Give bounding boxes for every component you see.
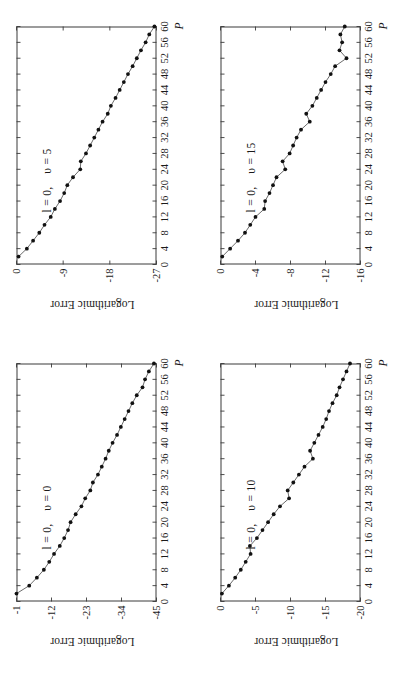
x-tick-label: 48: [158, 405, 169, 416]
data-point: [307, 119, 311, 123]
annotation-v-3: υ = 15: [244, 142, 256, 173]
x-tick-label: 20: [158, 179, 169, 190]
data-point: [71, 175, 75, 179]
y-tick-label: -9: [57, 268, 68, 330]
data-series-line: [222, 26, 346, 256]
x-tick-label: 4: [362, 246, 373, 251]
x-tick-label: 12: [158, 211, 169, 222]
annotation-l-1: l = 0,: [40, 186, 52, 212]
x-ticks-2: 04812162024283236404448525660: [362, 363, 378, 601]
y-tick-label: -18: [104, 268, 115, 330]
plot-canvas-2: [220, 363, 360, 601]
x-tick-label: 56: [362, 374, 373, 385]
data-point: [24, 246, 28, 250]
x-ticks-3: 04812162024283236404448525660: [362, 26, 378, 264]
x-tick-label: 36: [362, 453, 373, 464]
x-tick-label: 60: [158, 358, 169, 369]
x-tick-label: 32: [158, 132, 169, 143]
x-ticks-0: 04812162024283236404448525660: [158, 363, 174, 601]
annotation-0: l = 0,υ = 0: [40, 485, 52, 549]
data-point: [253, 215, 257, 219]
x-tick-label: 36: [158, 116, 169, 127]
x-tick-label: 32: [158, 469, 169, 480]
y-tick-label: -23: [81, 605, 92, 667]
data-point: [236, 238, 240, 242]
y-tick-label: -20: [355, 605, 366, 667]
y-tick-label: -8: [285, 268, 296, 330]
y-tick-label: -27: [151, 268, 162, 330]
x-tick-label: 0: [362, 261, 373, 266]
x-tick-label: 0: [158, 598, 169, 603]
data-point: [348, 361, 352, 365]
x-tick-label: 32: [362, 132, 373, 143]
data-point: [278, 504, 282, 508]
x-tick-label: 28: [362, 148, 373, 159]
data-point: [274, 175, 278, 179]
x-tick-label: 4: [362, 583, 373, 588]
x-tick-label: 40: [362, 437, 373, 448]
x-tick-label: 56: [362, 37, 373, 48]
data-point: [262, 207, 266, 211]
x-tick-label: 28: [362, 485, 373, 496]
x-tick-label: 56: [158, 37, 169, 48]
data-point: [248, 552, 252, 556]
x-tick-label: 24: [158, 501, 169, 512]
y-tick-label: -34: [116, 605, 127, 667]
data-point: [342, 24, 346, 28]
annotation-l-3: l = 0,: [244, 186, 256, 212]
y-ticks-2: 0-5-10-15-20: [220, 605, 360, 667]
data-point: [287, 496, 291, 500]
x-tick-label: 28: [158, 485, 169, 496]
x-tick-label: 24: [362, 164, 373, 175]
y-ticks-0: -1-12-23-34-45: [16, 605, 156, 667]
x-tick-label: 32: [362, 469, 373, 480]
x-tick-label: 16: [158, 532, 169, 543]
x-tick-label: 48: [158, 68, 169, 79]
x-tick-label: 60: [362, 358, 373, 369]
data-series-line: [221, 363, 349, 593]
data-point: [283, 167, 287, 171]
x-axis-label-text-1: P: [172, 22, 184, 29]
data-point: [302, 464, 306, 468]
x-tick-label: 24: [362, 501, 373, 512]
y-tick-label: -12: [46, 605, 57, 667]
y-tick-label: -45: [151, 605, 162, 667]
x-tick-label: 36: [158, 453, 169, 464]
data-point: [152, 361, 156, 365]
x-tick-label: 52: [362, 389, 373, 400]
y-tick-label: -1: [11, 605, 22, 667]
x-tick-label: 24: [158, 164, 169, 175]
y-tick-label: -10: [285, 605, 296, 667]
y-tick-label: -4: [250, 268, 261, 330]
plot-canvas-1: [16, 26, 156, 264]
x-tick-label: 16: [362, 532, 373, 543]
x-tick-label: 8: [362, 230, 373, 235]
annotation-1: l = 0,υ = 5: [40, 148, 52, 212]
chart-panel-3: Logarithmic Error 0-4-8-12-16 0481216202…: [210, 10, 406, 330]
data-point: [333, 64, 337, 68]
x-tick-label: 44: [362, 84, 373, 95]
annotation-2: l = 0,υ = 10: [244, 479, 256, 549]
x-tick-label: 56: [158, 374, 169, 385]
y-ticks-1: 0-9-18-27: [16, 268, 156, 330]
annotation-v-1: υ = 5: [40, 148, 52, 173]
data-point: [152, 24, 156, 28]
x-tick-label: 44: [362, 421, 373, 432]
data-point: [299, 127, 303, 131]
data-point: [304, 111, 308, 115]
data-point: [220, 591, 224, 595]
chart-panel-1: Logarithmic Error 0-9-18-27 048121620242…: [6, 10, 202, 330]
y-tick-label: -5: [250, 605, 261, 667]
data-series-line: [16, 363, 153, 593]
chart-panel-0: Logarithmic Error -1-12-23-34-45 0481216…: [6, 347, 202, 667]
x-tick-label: 44: [158, 84, 169, 95]
annotation-l-0: l = 0,: [40, 523, 52, 549]
y-tick-label: -12: [320, 268, 331, 330]
x-tick-label: 0: [362, 598, 373, 603]
x-tick-label: 20: [158, 516, 169, 527]
y-tick-label: 0: [215, 605, 226, 667]
x-tick-label: 52: [158, 389, 169, 400]
data-series-line: [18, 26, 154, 256]
y-ticks-3: 0-4-8-12-16: [220, 268, 360, 330]
x-tick-label: 48: [362, 68, 373, 79]
